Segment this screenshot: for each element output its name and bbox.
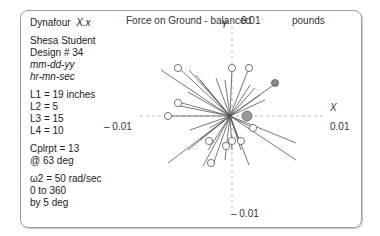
end-marker bbox=[272, 80, 279, 87]
start-marker bbox=[242, 111, 252, 121]
force-polar-plot bbox=[0, 0, 380, 236]
